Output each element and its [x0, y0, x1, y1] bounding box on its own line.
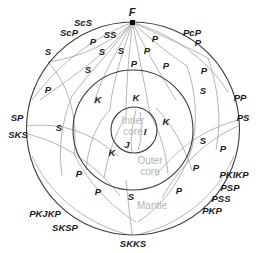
phase-label-P-22: P [193, 163, 199, 173]
exterior-phase-label-PKP-11: PKP [202, 206, 222, 216]
exterior-phase-label-SKKS-14: SKKS [120, 239, 146, 249]
phase-label-P-12: P [45, 85, 51, 95]
phase-label-P-21: P [220, 144, 226, 154]
phase-label-S-3: S [118, 46, 124, 56]
exterior-phase-label-SKS-7: SKS [8, 130, 28, 140]
phase-label-K-18: K [109, 148, 116, 158]
ray-path-core-path-left-1 [86, 110, 110, 170]
phase-label-P-8: P [163, 61, 169, 71]
exterior-phase-label-SP-6: SP [11, 113, 24, 123]
exterior-phase-label-PP-4: PP [234, 93, 247, 103]
exterior-phase-label-SS-2: SS [104, 30, 117, 40]
phase-label-S-0: S [45, 47, 51, 57]
phase-label-P-26: P [176, 186, 182, 196]
exterior-phase-label-PKJKP-12: PKJKP [29, 209, 61, 219]
phase-label-P-6: P [195, 38, 201, 48]
phase-label-K-15: K [163, 117, 170, 127]
phase-label-P-10: P [201, 66, 207, 76]
exterior-phase-label-ScP-1: ScP [60, 28, 78, 38]
ray-path-ScP-left [72, 23, 133, 97]
phase-label-S-20: S [200, 136, 206, 146]
phase-label-P-24: P [95, 187, 101, 197]
phase-label-P-7: P [131, 59, 137, 69]
ray-path-bottom-ray-center [126, 180, 132, 234]
phase-label-S-11: S [200, 86, 206, 96]
exterior-phase-label-SKSP-13: SKSP [52, 223, 78, 233]
phase-label-K-13: K [95, 95, 102, 105]
phase-label-P-4: P [144, 46, 150, 56]
exterior-phase-label-PKIKP-8: PKIKP [219, 170, 248, 180]
focus-label-F: F [129, 7, 136, 18]
phase-label-K-14: K [133, 93, 140, 103]
exterior-phase-label-PSP-9: PSP [220, 183, 239, 193]
phase-label-S-2: S [99, 47, 105, 57]
earthquake-focus-marker [130, 20, 135, 25]
seismic-ray-diagram: FScSScPSSPcPPPPSSPSKSPKIKPPSPPSSPKPPKJKP… [0, 0, 263, 253]
ray-path-PcP-right [133, 23, 188, 67]
phase-label-P-5: P [152, 34, 158, 44]
layer-label-outer-core: Outercore [137, 156, 162, 177]
phase-label-S-9: S [85, 65, 91, 75]
phase-label-P-23: P [76, 169, 82, 179]
exterior-phase-label-PSS-10: PSS [211, 194, 230, 204]
phase-label-S-25: S [128, 192, 134, 202]
ray-path-mantle-arc-right-2 [208, 58, 219, 150]
ray-path-mantle-arc-left-2 [60, 96, 72, 176]
ray-path-mantle-arc-left-4 [27, 134, 120, 196]
layer-label-inner-core: Innercore [122, 116, 145, 137]
phase-label-J-17: J [124, 140, 129, 150]
layer-label-mantle: Mantle [137, 201, 167, 211]
phase-label-P-1: P [90, 37, 96, 47]
ray-path-P-core-center [126, 23, 133, 117]
exterior-phase-label-PS-5: PS [237, 113, 250, 123]
phase-label-S-19: S [56, 123, 62, 133]
